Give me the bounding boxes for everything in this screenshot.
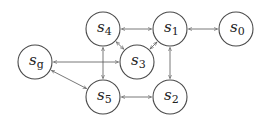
node-s4: s4 <box>86 12 120 46</box>
edge-sg-s5 <box>51 70 86 88</box>
state-graph: sgs4s1s0s3s5s2 <box>0 0 268 119</box>
node-s3: s3 <box>120 45 154 79</box>
node-s0: s0 <box>219 12 253 46</box>
node-s5: s5 <box>86 80 120 114</box>
edge-s1-s3 <box>150 42 157 49</box>
node-s2: s2 <box>153 80 187 114</box>
node-sg: sg <box>18 45 52 79</box>
edge-s4-s3 <box>116 42 123 49</box>
nodes-layer: sgs4s1s0s3s5s2 <box>18 12 253 114</box>
node-s1: s1 <box>153 12 187 46</box>
